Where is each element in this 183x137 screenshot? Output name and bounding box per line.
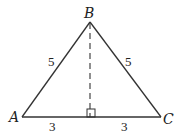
vertex-label-b: B [83, 5, 94, 21]
side-ab [22, 22, 90, 117]
triangle-diagram: B A C 5 5 3 3 [0, 0, 183, 137]
vertex-label-a: A [7, 109, 19, 125]
vertex-label-c: C [163, 111, 174, 127]
right-angle-marker [87, 109, 95, 117]
side-bc [90, 22, 161, 117]
side-length-bc: 5 [125, 54, 132, 69]
side-length-dc: 3 [121, 119, 128, 134]
side-length-ab: 5 [48, 54, 55, 69]
side-length-ad: 3 [49, 119, 56, 134]
